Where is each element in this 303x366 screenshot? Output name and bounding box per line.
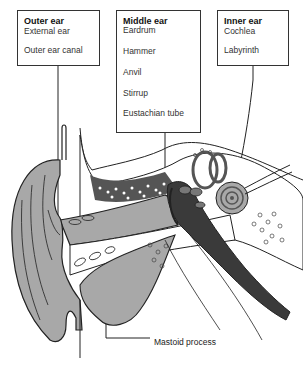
eustachian-tube-label: Eustachian tube — [123, 109, 194, 119]
outer-ear-title: Outer ear — [24, 16, 93, 26]
outer-ear-canal-label: Outer ear canal — [24, 46, 93, 56]
anvil-label: Anvil — [123, 68, 194, 78]
eardrum-label: Eardrum — [123, 26, 194, 36]
outer-ear-label-box: Outer ear External ear Outer ear canal — [17, 10, 100, 66]
cochlea — [216, 182, 248, 214]
hammer-label: Hammer — [123, 47, 194, 57]
stirrup — [195, 202, 205, 208]
stirrup-label: Stirrup — [123, 89, 194, 99]
middle-ear-label-box: Middle ear Eardrum Hammer Anvil Stirrup … — [116, 10, 201, 133]
inner-ear-label-box: Inner ear Cochlea Labyrinth — [217, 10, 289, 66]
labyrinth-label: Labyrinth — [224, 46, 282, 56]
mastoid-process-label: Mastoid process — [154, 337, 216, 347]
inner-ear-title: Inner ear — [224, 16, 282, 26]
anvil — [190, 188, 202, 196]
hammer — [179, 186, 191, 194]
external-ear-label: External ear — [24, 27, 93, 37]
cochlea-label: Cochlea — [224, 27, 282, 37]
